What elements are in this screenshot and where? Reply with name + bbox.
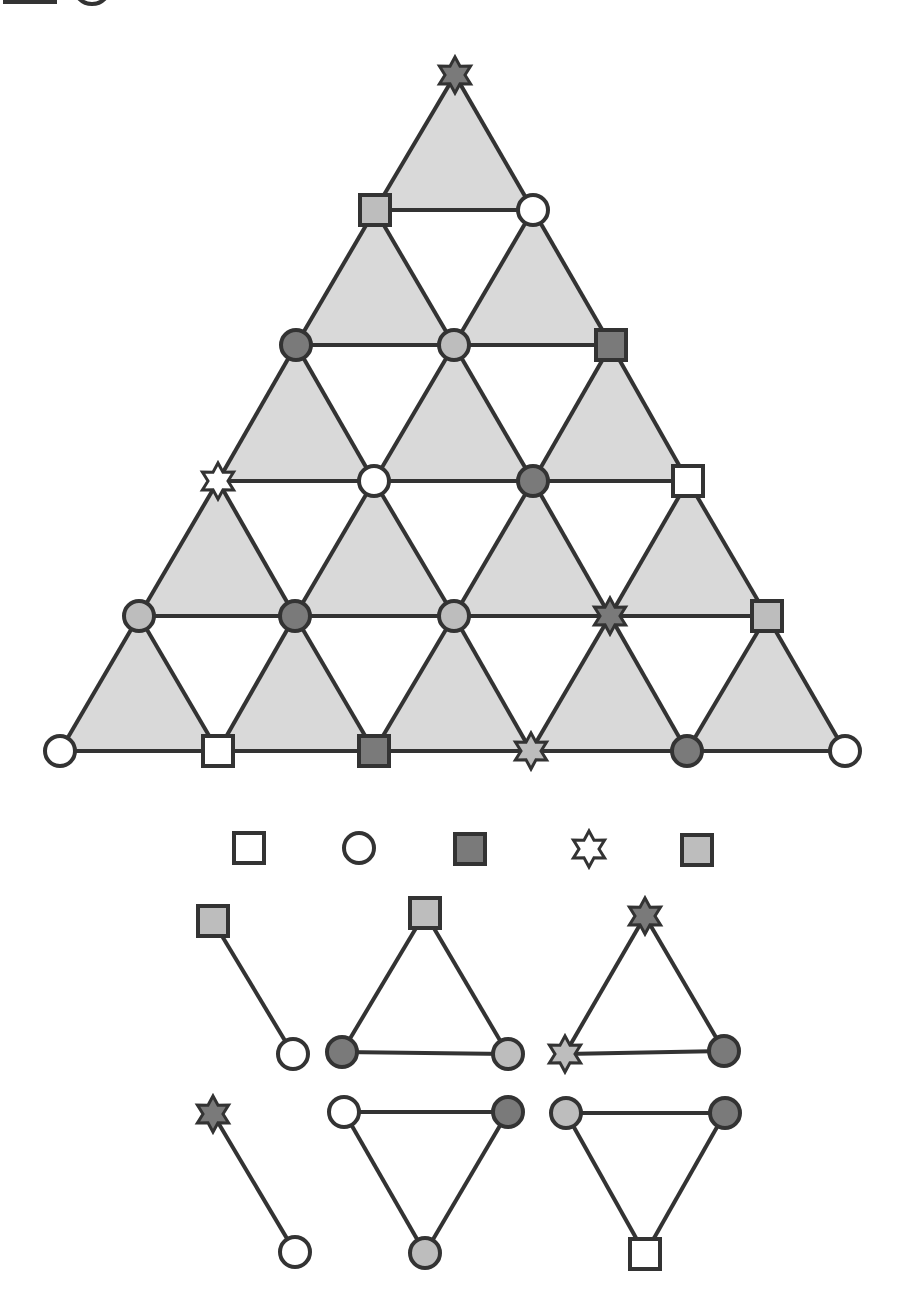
filled-triangle (139, 481, 295, 616)
filled-triangle (218, 616, 374, 751)
dark-circle-node (709, 1036, 739, 1066)
small-graph-edge (342, 1052, 508, 1054)
small-graph-2 (327, 898, 523, 1069)
white-circle-node (359, 466, 389, 496)
dark-circle-node (281, 330, 311, 360)
filled-triangle (375, 75, 533, 210)
filled-triangle (296, 210, 454, 345)
white-square-node (630, 1239, 660, 1269)
white-square-node (673, 466, 703, 496)
dark-circle-node (710, 1098, 740, 1128)
legend-white-square (234, 833, 264, 863)
dark-circle-node (493, 1097, 523, 1127)
small-graph-4 (197, 1096, 310, 1267)
legend-white-circle (344, 833, 374, 863)
small-graph-edge (425, 913, 508, 1054)
filled-triangle (295, 481, 454, 616)
dark-square-node (596, 330, 626, 360)
light-circle-node (493, 1039, 523, 1069)
filled-triangle (374, 345, 533, 481)
legend-light-square (682, 835, 712, 865)
light-square-node (198, 906, 228, 936)
small-graphs (197, 898, 740, 1269)
filled-triangle (533, 345, 688, 481)
small-graph-edge (645, 916, 724, 1051)
dark-square-node (359, 736, 389, 766)
white-circle-node (278, 1039, 308, 1069)
filled-triangle (454, 481, 610, 616)
dark-circle-node (327, 1037, 357, 1067)
white-circle-node (830, 736, 860, 766)
small-graph-edge (213, 1114, 295, 1252)
light-circle-node (439, 330, 469, 360)
light-circle-node (124, 601, 154, 631)
dark-star-node (439, 57, 470, 93)
dark-star-node (197, 1096, 228, 1132)
legend-dark-square (455, 834, 485, 864)
light-circle-node (551, 1098, 581, 1128)
small-graph-edge (342, 913, 425, 1052)
fragment-square (5, 0, 55, 2)
legend (234, 831, 712, 867)
dark-star-node (629, 898, 660, 934)
white-circle-node (280, 1237, 310, 1267)
fragment-circle (74, 0, 110, 4)
dark-circle-node (672, 736, 702, 766)
small-graph-6 (551, 1098, 740, 1269)
filled-triangle (454, 210, 611, 345)
light-square-node (410, 898, 440, 928)
light-star-node (549, 1036, 580, 1072)
filled-triangle (60, 616, 218, 751)
triangle-fills (60, 75, 845, 751)
small-graph-edge (425, 1112, 508, 1253)
white-square-node (203, 736, 233, 766)
small-graph-5 (329, 1097, 523, 1268)
dark-circle-node (280, 601, 310, 631)
small-graph-edge (565, 1051, 724, 1054)
white-circle-node (45, 736, 75, 766)
light-square-node (360, 195, 390, 225)
filled-triangle (218, 345, 374, 481)
legend-white-star (573, 831, 604, 867)
small-graph-edge (645, 1113, 725, 1254)
small-graph-edge (344, 1112, 425, 1253)
small-graph-edge (213, 921, 293, 1054)
small-graph-edge (565, 916, 645, 1054)
dark-circle-node (518, 466, 548, 496)
top-left-fragment (5, 0, 110, 4)
light-circle-node (439, 601, 469, 631)
white-circle-node (518, 195, 548, 225)
small-graph-edge (566, 1113, 645, 1254)
filled-triangle (687, 616, 845, 751)
light-circle-node (410, 1238, 440, 1268)
small-graph-1 (198, 906, 308, 1069)
filled-triangle (610, 481, 767, 616)
filled-triangle (374, 616, 531, 751)
diagram-canvas (0, 0, 899, 1314)
small-graph-3 (549, 898, 739, 1072)
light-square-node (752, 601, 782, 631)
filled-triangle (531, 616, 687, 751)
white-circle-node (329, 1097, 359, 1127)
